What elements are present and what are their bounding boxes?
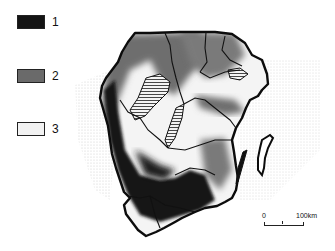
legend-swatch-1 bbox=[17, 15, 45, 29]
legend-label-1: 1 bbox=[52, 15, 59, 29]
scale-end-label: 100km bbox=[296, 212, 317, 219]
legend-swatch-2 bbox=[17, 69, 45, 83]
scale-bar-line bbox=[264, 222, 304, 226]
scale-bar-midtick bbox=[282, 221, 283, 224]
legend-label-2: 2 bbox=[52, 69, 59, 83]
legend-item-1: 1 bbox=[17, 15, 59, 29]
legend-item-2: 2 bbox=[17, 69, 59, 83]
legend-label-3: 3 bbox=[52, 122, 59, 136]
scale-start-label: 0 bbox=[262, 212, 266, 219]
legend-item-3: 3 bbox=[17, 122, 59, 136]
legend-swatch-3 bbox=[17, 122, 45, 136]
scale-bar: 0 100km bbox=[262, 212, 322, 232]
